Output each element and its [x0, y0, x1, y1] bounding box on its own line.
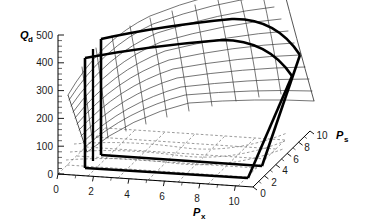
px-tick-6: 6 — [159, 191, 165, 202]
qd-tick-100: 100 — [36, 141, 53, 152]
ps-axis: 0 2 4 6 8 10 P s — [253, 129, 349, 199]
px-tick-2: 2 — [88, 186, 94, 197]
px-axis-label-subscript: x — [201, 212, 206, 220]
px-tick-4: 4 — [124, 189, 130, 200]
qd-tick-200: 200 — [36, 113, 53, 124]
qd-tick-0: 0 — [47, 169, 53, 180]
ps-tick-10: 10 — [316, 130, 328, 141]
plot-canvas: 500 400 300 200 100 0 Q d 0 2 — [0, 0, 366, 220]
qd-tick-400: 400 — [36, 57, 53, 68]
ps-tick-0: 0 — [260, 188, 266, 199]
surface-plot-figure: 500 400 300 200 100 0 Q d 0 2 — [0, 0, 366, 220]
ps-tick-2: 2 — [271, 177, 277, 188]
ps-axis-label: P — [336, 129, 344, 141]
ps-tick-8: 8 — [304, 142, 310, 153]
px-tick-0: 0 — [53, 184, 59, 195]
qd-tick-300: 300 — [36, 85, 53, 96]
qd-axis: 500 400 300 200 100 0 Q d — [20, 29, 64, 180]
qd-tick-500: 500 — [36, 30, 53, 41]
ps-tick-6: 6 — [293, 154, 299, 165]
ps-axis-label-subscript: s — [344, 135, 349, 144]
px-axis: 0 2 4 6 8 10 P x — [53, 174, 253, 220]
px-tick-10: 10 — [228, 196, 240, 207]
px-tick-8: 8 — [194, 193, 200, 204]
qd-axis-label-subscript: d — [28, 35, 33, 44]
px-axis-label: P — [193, 206, 201, 218]
ps-tick-4: 4 — [282, 165, 288, 176]
